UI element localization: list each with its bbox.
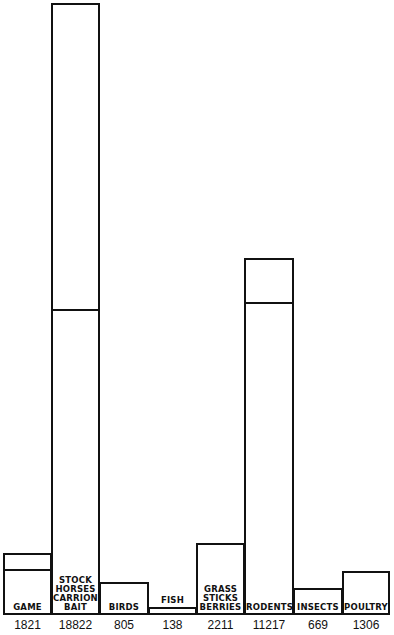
category-label: POULTRY <box>344 603 388 612</box>
bar-stock-horses-carrion-bait: STOCK HORSES CARRION BAIT <box>51 3 100 615</box>
bar-divider <box>246 302 292 304</box>
bar-divider <box>53 309 98 311</box>
category-label: BIRDS <box>101 603 147 612</box>
value-label: 1821 <box>3 618 52 632</box>
category-label: STOCK HORSES CARRION BAIT <box>53 576 98 612</box>
bar-birds: BIRDS <box>99 582 149 615</box>
bar-grass-sticks-berries: GRASS STICKS BERRIES <box>196 543 245 615</box>
bar-rodents: RODENTS <box>244 258 294 615</box>
bar-insects: INSECTS <box>293 588 343 615</box>
bar-game: GAME <box>3 553 52 615</box>
category-label: GAME <box>5 603 50 612</box>
category-label: GRASS STICKS BERRIES <box>198 585 243 612</box>
bar-divider <box>5 569 50 571</box>
bar-chart: GAME STOCK HORSES CARRION BAIT BIRDS FIS… <box>0 0 394 635</box>
value-label: 1306 <box>342 618 390 632</box>
baseline <box>3 613 390 615</box>
value-label: 11217 <box>244 618 294 632</box>
category-label: RODENTS <box>246 603 292 612</box>
value-label: 18822 <box>51 618 100 632</box>
category-label: FISH <box>150 596 195 605</box>
value-label: 2211 <box>196 618 245 632</box>
category-label: INSECTS <box>295 603 341 612</box>
value-label: 138 <box>148 618 197 632</box>
bar-poultry: POULTRY <box>342 571 390 615</box>
value-label: 669 <box>293 618 343 632</box>
value-label: 805 <box>99 618 149 632</box>
